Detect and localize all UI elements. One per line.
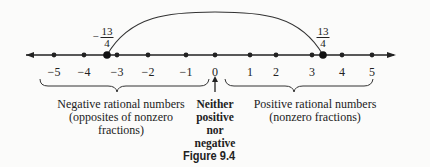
tick-label: 4 bbox=[339, 65, 345, 80]
opposites-arc bbox=[107, 12, 323, 55]
tick-label: 1 bbox=[247, 65, 253, 80]
point-pos-13-4 bbox=[319, 51, 327, 59]
tick-label: −2 bbox=[142, 65, 155, 80]
positive-caption: Positive rational numbers (nonzero fract… bbox=[250, 98, 380, 124]
tick-label: 0 bbox=[212, 65, 218, 80]
tick-label: −4 bbox=[78, 65, 91, 80]
tick-label: −1 bbox=[180, 65, 193, 80]
negative-brace bbox=[40, 79, 209, 92]
right-arrow-icon bbox=[387, 52, 396, 58]
neg-13-4-label: − 13 4 bbox=[101, 26, 114, 49]
figure-9-4: −5 −4 −3 −2 −1 0 1 2 3 4 5 − 13 4 13 4 N… bbox=[0, 0, 430, 167]
tick-label: 2 bbox=[273, 65, 279, 80]
tick-label: −5 bbox=[48, 65, 61, 80]
negative-caption: Negative rational numbers (opposites of … bbox=[46, 98, 196, 137]
pos-13-4-label: 13 4 bbox=[317, 26, 330, 49]
point-neg-13-4 bbox=[103, 51, 111, 59]
zero-caption: Neither positive nor negative bbox=[190, 98, 240, 150]
tick-label: 3 bbox=[309, 65, 315, 80]
figure-caption: Figure 9.4 bbox=[183, 148, 235, 163]
tick-label: 5 bbox=[369, 65, 375, 80]
left-arrow-icon bbox=[26, 52, 34, 58]
positive-brace bbox=[225, 79, 373, 92]
tick-label: −3 bbox=[111, 65, 124, 80]
